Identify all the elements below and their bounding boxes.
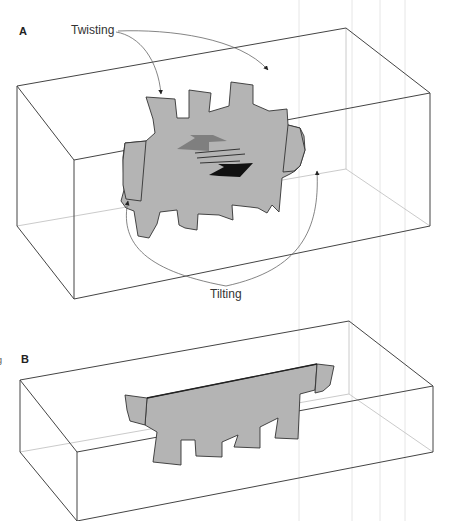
twisting-label: Twisting [71, 23, 114, 37]
tilting-label: Tilting [210, 287, 242, 301]
panel-a-fault-surface [121, 82, 305, 238]
panel-b-label: B [21, 353, 29, 365]
panel-a-label: A [19, 25, 27, 37]
diagram-canvas [0, 0, 449, 521]
background-guides [299, 0, 405, 521]
panel-b-fault-surface [125, 364, 334, 465]
edge-glyph: g [0, 355, 2, 365]
